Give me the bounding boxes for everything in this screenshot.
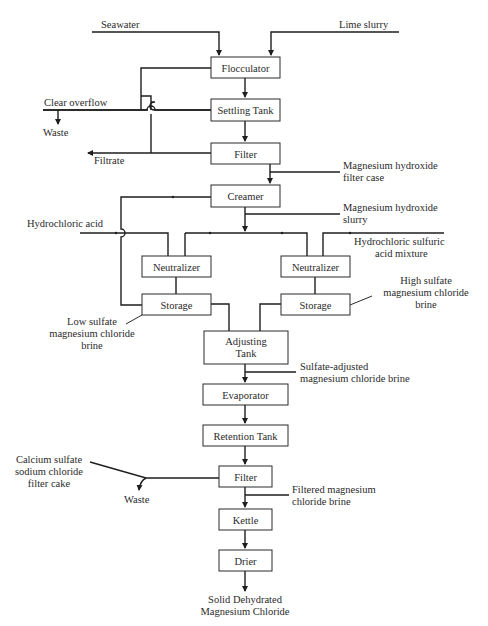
storage-left-to-adjusting [211, 304, 229, 331]
waste-top-label: Waste [43, 127, 69, 138]
slurry-header-line [185, 233, 307, 256]
filter-cake-label-3: filter cake [28, 478, 71, 489]
high-sulfate-leader [350, 296, 372, 305]
unit-kettle: Kettle [219, 509, 272, 530]
high-sulfate-label-1: High sulfate [400, 275, 452, 286]
high-sulfate-label-2: magnesium chloride [383, 287, 469, 298]
filter-cake-label-1: Calcium sulfate [16, 454, 83, 465]
mg-hydroxide-filter-case-label-1: Magnesium hydroxide [343, 160, 438, 171]
low-sulfate-label-1: Low sulfate [67, 316, 117, 327]
evaporator-label: Evaporator [222, 390, 269, 401]
creamer-recycle-line [121, 197, 211, 305]
filter-cake-line [90, 462, 219, 478]
storage-right-label: Storage [299, 300, 331, 311]
flow-dot [349, 232, 351, 234]
lime-slurry-label: Lime slurry [339, 19, 389, 30]
filter-cake-label-2: sodium chloride [15, 466, 83, 477]
mg-hydroxide-slurry-label-1: Magnesium hydroxide [343, 202, 438, 213]
unit-retention-tank: Retention Tank [203, 425, 288, 446]
unit-storage-right: Storage [281, 294, 350, 315]
unit-filter-1: Filter [211, 143, 280, 164]
product-label-2: Magnesium Chloride [201, 606, 290, 617]
clear-overflow-hop [147, 106, 211, 110]
filtered-brine-label-1: Filtered magnesium [292, 484, 376, 495]
kettle-label: Kettle [233, 515, 259, 526]
mg-hydroxide-slurry-label-2: slurry [343, 214, 368, 225]
process-flow-diagram: Flocculator Settling Tank Filter Creamer… [0, 0, 488, 626]
clear-overflow-label: Clear overflow [44, 97, 108, 108]
low-sulfate-label-2: magnesium chloride [49, 328, 135, 339]
unit-neutralizer-right: Neutralizer [281, 256, 350, 277]
filter-2-label: Filter [234, 472, 257, 483]
flow-dot [115, 232, 117, 234]
filtrate-label: Filtrate [94, 155, 125, 166]
flow-dot [281, 232, 283, 234]
flocculator-label: Flocculator [222, 63, 270, 74]
sulfate-adjusted-label-1: Sulfate-adjusted [300, 361, 369, 372]
neutralizer-right-label: Neutralizer [292, 262, 340, 273]
storage-right-to-adjusting [260, 304, 281, 331]
mg-hydroxide-filter-case-label-2: filter case [343, 172, 384, 183]
low-sulfate-label-3: brine [81, 340, 103, 351]
hydrochloric-acid-label: Hydrochloric acid [27, 218, 104, 229]
waste-bottom-arrow [139, 478, 146, 490]
drier-label: Drier [234, 556, 257, 567]
product-label-1: Solid Dehydrated [208, 594, 283, 605]
low-sulfate-leader [126, 315, 142, 324]
creamer-label: Creamer [227, 191, 264, 202]
waste-bottom-label: Waste [124, 494, 150, 505]
overflow-recycle-line [141, 68, 211, 110]
flow-dot [209, 232, 211, 234]
hcl-sulfuric-label-1: Hydrochloric sulfuric [354, 236, 445, 247]
unit-creamer: Creamer [211, 185, 280, 207]
settling-tank-label: Settling Tank [218, 105, 275, 116]
unit-neutralizer-left: Neutralizer [142, 256, 211, 277]
unit-storage-left: Storage [142, 294, 211, 315]
hcl-sulfuric-label-2: acid mixture [375, 248, 428, 259]
high-sulfate-label-3: brine [415, 299, 437, 310]
filtered-brine-label-2: chloride brine [292, 496, 351, 507]
seawater-label: Seawater [101, 19, 140, 30]
filter-1-label: Filter [234, 149, 257, 160]
adjusting-tank-label-line2: Tank [236, 348, 258, 359]
unit-drier: Drier [219, 550, 272, 571]
retention-tank-label: Retention Tank [213, 431, 278, 442]
sulfate-adjusted-label-2: magnesium chloride brine [300, 373, 410, 384]
lime-slurry-line [271, 32, 399, 55]
unit-adjusting-tank: Adjusting Tank [204, 331, 288, 364]
adjusting-tank-label-line1: Adjusting [225, 336, 267, 347]
unit-evaporator: Evaporator [203, 384, 288, 405]
unit-settling-tank: Settling Tank [211, 99, 280, 121]
unit-filter-2: Filter [219, 466, 272, 487]
unit-flocculator: Flocculator [211, 57, 280, 78]
storage-left-label: Storage [160, 300, 192, 311]
neutralizer-left-label: Neutralizer [153, 262, 201, 273]
flow-dot [172, 196, 174, 198]
seawater-line [92, 32, 219, 55]
